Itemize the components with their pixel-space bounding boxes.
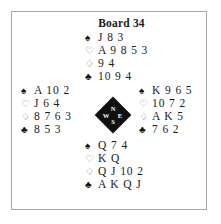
heart-icon: ♡ [139,97,150,110]
hand-west-hearts: ♡ J 6 4 [21,97,107,110]
hand-east-spades: ♠ K 9 6 5 [139,84,221,97]
diamond-icon: ♢ [139,110,150,123]
hand-south-clubs-cards: A K Q J [96,178,142,191]
hand-north-diamonds: ♢ 9 4 [85,57,171,70]
compass-label-south: S [108,118,118,125]
hand-south-spades: ♠ Q 7 4 [85,139,171,152]
hand-east-hearts-cards: 10 7 2 [150,97,186,110]
hand-north-hearts-cards: A 9 8 5 3 [96,44,148,57]
hand-south-hearts: ♡ K Q [85,152,171,165]
heart-icon: ♡ [85,44,96,57]
hand-west-spades: ♠ A 10 2 [21,84,107,97]
hand-south-hearts-cards: K Q [96,152,120,165]
hand-west: ♠ A 10 2 ♡ J 6 4 ♢ 8 7 6 3 ♣ 8 5 3 [21,84,107,136]
hand-east-clubs-cards: 7 6 2 [150,123,180,136]
hand-south-diamonds: ♢ Q J 10 2 [85,165,171,178]
hand-east-clubs: ♣ 7 6 2 [139,123,221,136]
club-icon: ♣ [85,178,96,191]
hand-west-diamonds-cards: 8 7 6 3 [32,110,72,123]
hand-south: ♠ Q 7 4 ♡ K Q ♢ Q J 10 2 ♣ A K Q J [85,139,171,191]
club-icon: ♣ [139,123,150,136]
hand-north-hearts: ♡ A 9 8 5 3 [85,44,171,57]
hand-south-clubs: ♣ A K Q J [85,178,171,191]
compass-rose: N W E S [97,99,129,131]
hand-west-hearts-cards: J 6 4 [32,97,60,110]
hand-west-clubs: ♣ 8 5 3 [21,123,107,136]
hand-north-spades: ♠ J 8 3 [85,31,171,44]
club-icon: ♣ [85,70,96,83]
spade-icon: ♠ [139,84,150,97]
bridge-deal-diagram: Board 34 ♠ J 8 3 ♡ A 9 8 5 3 ♢ 9 4 ♣ 10 … [0,0,221,224]
hand-west-clubs-cards: 8 5 3 [32,123,62,136]
hand-south-spades-cards: Q 7 4 [96,139,128,152]
spade-icon: ♠ [85,31,96,44]
hand-east-spades-cards: K 9 6 5 [150,84,192,97]
hand-north-diamonds-cards: 9 4 [96,57,115,70]
hand-east: ♠ K 9 6 5 ♡ 10 7 2 ♢ A K 5 ♣ 7 6 2 [139,84,221,136]
hand-north-clubs-cards: 10 9 4 [96,70,132,83]
hand-south-diamonds-cards: Q J 10 2 [96,165,144,178]
hand-north-clubs: ♣ 10 9 4 [85,70,171,83]
heart-icon: ♡ [21,97,32,110]
hand-west-diamonds: ♢ 8 7 6 3 [21,110,107,123]
board-title: Board 34 [0,17,221,29]
spade-icon: ♠ [85,139,96,152]
hand-west-spades-cards: A 10 2 [32,84,70,97]
hand-east-hearts: ♡ 10 7 2 [139,97,221,110]
diamond-icon: ♢ [85,165,96,178]
diamond-icon: ♢ [21,110,32,123]
diamond-icon: ♢ [85,57,96,70]
club-icon: ♣ [21,123,32,136]
hand-north-spades-cards: J 8 3 [96,31,124,44]
heart-icon: ♡ [85,152,96,165]
hand-north: ♠ J 8 3 ♡ A 9 8 5 3 ♢ 9 4 ♣ 10 9 4 [85,31,171,83]
spade-icon: ♠ [21,84,32,97]
hand-east-diamonds: ♢ A K 5 [139,110,221,123]
hand-east-diamonds-cards: A K 5 [150,110,184,123]
